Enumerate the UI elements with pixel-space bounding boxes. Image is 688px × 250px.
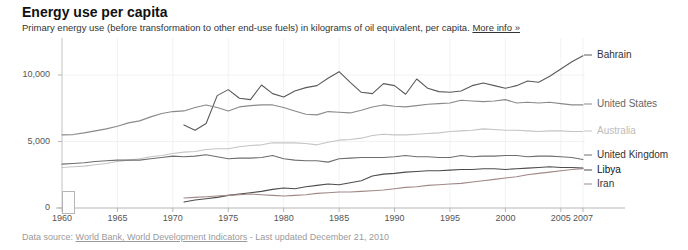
x-tick-label: 1970 bbox=[153, 213, 193, 223]
x-tick-label: 2007 bbox=[563, 213, 603, 223]
x-tick-label: 1985 bbox=[319, 213, 359, 223]
x-tick-label: 1995 bbox=[430, 213, 470, 223]
more-info-link[interactable]: More info » bbox=[472, 22, 520, 33]
x-tick-label: 1990 bbox=[375, 213, 415, 223]
series-line-libya[interactable] bbox=[184, 167, 583, 202]
y-tick-label: 10,000 bbox=[10, 69, 50, 79]
y-tick-label: 0 bbox=[10, 202, 50, 212]
series-label-libya[interactable]: Libya bbox=[597, 164, 621, 175]
chart-widget: Energy use per capita Primary energy use… bbox=[0, 0, 688, 250]
chart-subtitle: Primary energy use (before transformatio… bbox=[22, 22, 520, 33]
series-line-united-kingdom[interactable] bbox=[62, 155, 583, 164]
series-line-bahrain[interactable] bbox=[184, 56, 583, 130]
series-line-united-states[interactable] bbox=[62, 100, 583, 135]
series-label-iran[interactable]: Iran bbox=[597, 178, 614, 189]
data-source-link[interactable]: World Bank, World Development Indicators bbox=[76, 232, 248, 242]
x-tick-label: 1960 bbox=[42, 213, 82, 223]
series-lines bbox=[62, 55, 592, 202]
series-label-bahrain[interactable]: Bahrain bbox=[597, 49, 631, 60]
chart-svg bbox=[0, 34, 688, 214]
x-tick-label: 1965 bbox=[97, 213, 137, 223]
x-tick-label: 1980 bbox=[264, 213, 304, 223]
footer-prefix: Data source: bbox=[22, 232, 73, 242]
x-tick-label: 1975 bbox=[208, 213, 248, 223]
subtitle-text: Primary energy use (before transformatio… bbox=[22, 22, 470, 33]
footer-note: Data source: World Bank, World Developme… bbox=[22, 232, 389, 242]
page-title: Energy use per capita bbox=[22, 4, 168, 20]
range-slider-handle[interactable] bbox=[62, 191, 75, 214]
chart-plot-area bbox=[0, 34, 688, 214]
x-tick-label: 2000 bbox=[485, 213, 525, 223]
series-label-united-kingdom[interactable]: United Kingdom bbox=[597, 149, 668, 160]
axis-lines bbox=[56, 38, 625, 212]
y-tick-label: 5,000 bbox=[10, 136, 50, 146]
series-label-united-states[interactable]: United States bbox=[597, 98, 657, 109]
series-label-australia[interactable]: Australia bbox=[597, 125, 636, 136]
footer-updated: - Last updated December 21, 2010 bbox=[250, 232, 389, 242]
gridlines bbox=[62, 38, 585, 208]
